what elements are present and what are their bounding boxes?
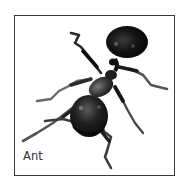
picture-card[interactable]: Ant <box>14 15 175 176</box>
ant-head <box>106 26 148 58</box>
card-label: Ant <box>23 149 43 163</box>
